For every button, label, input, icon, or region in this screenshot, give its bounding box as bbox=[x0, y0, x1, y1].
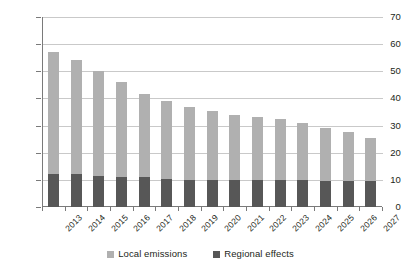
bar-segment-local-emissions[interactable] bbox=[229, 115, 240, 180]
x-tick-label-2025: 2025 bbox=[336, 213, 356, 233]
bar-group[interactable] bbox=[275, 17, 286, 207]
bar-segment-local-emissions[interactable] bbox=[343, 132, 354, 181]
y-tick-mark-30 bbox=[36, 126, 41, 127]
chart-legend: Local emissionsRegional effects bbox=[0, 249, 401, 259]
bar-group[interactable] bbox=[229, 17, 240, 207]
bar-segment-local-emissions[interactable] bbox=[207, 111, 218, 180]
bar-segment-local-emissions[interactable] bbox=[252, 117, 263, 179]
x-tick-mark-end bbox=[382, 207, 383, 211]
bar-segment-local-emissions[interactable] bbox=[116, 82, 127, 177]
x-tick-mark-2013 bbox=[42, 207, 43, 211]
bar-segment-local-emissions[interactable] bbox=[93, 71, 104, 176]
bar-group[interactable] bbox=[116, 17, 127, 207]
bar-group[interactable] bbox=[71, 17, 82, 207]
bar-group[interactable] bbox=[365, 17, 376, 207]
bar-segment-local-emissions[interactable] bbox=[161, 101, 172, 178]
x-tick-label-2024: 2024 bbox=[313, 213, 333, 233]
x-tick-label-2013: 2013 bbox=[64, 213, 84, 233]
x-tick-mark-2019 bbox=[178, 207, 179, 211]
bar-group[interactable] bbox=[252, 17, 263, 207]
bar-segment-regional-effects[interactable] bbox=[275, 180, 286, 207]
x-tick-label-2017: 2017 bbox=[155, 213, 175, 233]
x-tick-label-2022: 2022 bbox=[268, 213, 288, 233]
bar-segment-local-emissions[interactable] bbox=[139, 94, 150, 177]
x-tick-label-2019: 2019 bbox=[200, 213, 220, 233]
x-tick-label-2018: 2018 bbox=[177, 213, 197, 233]
bar-group[interactable] bbox=[207, 17, 218, 207]
legend-swatch-icon bbox=[213, 251, 220, 258]
legend-label: Local emissions bbox=[118, 249, 187, 259]
legend-item[interactable]: Regional effects bbox=[213, 249, 294, 259]
bar-segment-regional-effects[interactable] bbox=[184, 180, 195, 207]
bar-segment-regional-effects[interactable] bbox=[297, 180, 308, 207]
bar-group[interactable] bbox=[184, 17, 195, 207]
bar-segment-local-emissions[interactable] bbox=[365, 138, 376, 181]
bar-group[interactable] bbox=[297, 17, 308, 207]
x-tick-label-2021: 2021 bbox=[245, 213, 265, 233]
bar-segment-regional-effects[interactable] bbox=[343, 181, 354, 207]
x-tick-mark-2026 bbox=[337, 207, 338, 211]
bar-segment-regional-effects[interactable] bbox=[161, 179, 172, 208]
x-tick-mark-2024 bbox=[291, 207, 292, 211]
x-tick-mark-2018 bbox=[155, 207, 156, 211]
bar-segment-regional-effects[interactable] bbox=[71, 174, 82, 207]
y-tick-mark-70 bbox=[36, 17, 41, 18]
x-tick-label-2027: 2027 bbox=[381, 213, 401, 233]
bar-segment-regional-effects[interactable] bbox=[252, 180, 263, 207]
bar-segment-regional-effects[interactable] bbox=[139, 177, 150, 207]
y-tick-mark-40 bbox=[36, 98, 41, 99]
x-tick-mark-2014 bbox=[65, 207, 66, 211]
bar-segment-regional-effects[interactable] bbox=[320, 181, 331, 207]
bars-layer bbox=[42, 17, 382, 207]
x-tick-mark-2027 bbox=[359, 207, 360, 211]
legend-swatch-icon bbox=[107, 251, 114, 258]
x-tick-mark-2021 bbox=[223, 207, 224, 211]
x-tick-mark-2015 bbox=[87, 207, 88, 211]
bar-segment-local-emissions[interactable] bbox=[71, 60, 82, 174]
bar-group[interactable] bbox=[139, 17, 150, 207]
bar-segment-regional-effects[interactable] bbox=[48, 174, 59, 207]
bar-segment-local-emissions[interactable] bbox=[275, 119, 286, 180]
bar-segment-regional-effects[interactable] bbox=[93, 176, 104, 207]
bar-segment-local-emissions[interactable] bbox=[184, 107, 195, 180]
y-tick-mark-50 bbox=[36, 71, 41, 72]
bar-group[interactable] bbox=[161, 17, 172, 207]
x-tick-mark-2020 bbox=[201, 207, 202, 211]
x-tick-label-2023: 2023 bbox=[291, 213, 311, 233]
bar-group[interactable] bbox=[48, 17, 59, 207]
y-tick-mark-0 bbox=[36, 207, 41, 208]
x-tick-mark-2025 bbox=[314, 207, 315, 211]
y-tick-mark-20 bbox=[36, 153, 41, 154]
bar-segment-local-emissions[interactable] bbox=[297, 123, 308, 180]
x-tick-label-2016: 2016 bbox=[132, 213, 152, 233]
x-tick-label-2015: 2015 bbox=[109, 213, 129, 233]
bar-group[interactable] bbox=[93, 17, 104, 207]
bar-segment-regional-effects[interactable] bbox=[365, 181, 376, 207]
x-tick-mark-2022 bbox=[246, 207, 247, 211]
bar-segment-regional-effects[interactable] bbox=[116, 177, 127, 207]
x-tick-mark-2023 bbox=[269, 207, 270, 211]
bar-segment-local-emissions[interactable] bbox=[48, 52, 59, 174]
x-tick-label-2014: 2014 bbox=[87, 213, 107, 233]
x-tick-label-2026: 2026 bbox=[359, 213, 379, 233]
bar-segment-local-emissions[interactable] bbox=[320, 128, 331, 181]
legend-item[interactable]: Local emissions bbox=[107, 249, 187, 259]
bar-segment-regional-effects[interactable] bbox=[229, 180, 240, 207]
x-tick-label-2020: 2020 bbox=[223, 213, 243, 233]
x-tick-mark-2016 bbox=[110, 207, 111, 211]
bar-group[interactable] bbox=[343, 17, 354, 207]
bar-group[interactable] bbox=[320, 17, 331, 207]
x-tick-mark-2017 bbox=[133, 207, 134, 211]
bar-segment-regional-effects[interactable] bbox=[207, 180, 218, 207]
y-tick-mark-60 bbox=[36, 44, 41, 45]
y-tick-mark-10 bbox=[36, 180, 41, 181]
stacked-bar-chart: 706050403020100 201320142015201620172018… bbox=[0, 0, 401, 276]
legend-label: Regional effects bbox=[224, 249, 294, 259]
